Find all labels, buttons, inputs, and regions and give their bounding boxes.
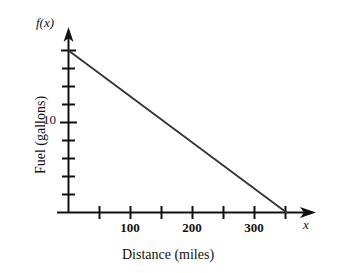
data-line-fuel-remaining bbox=[69, 51, 287, 213]
x-tick-label-200: 200 bbox=[182, 221, 202, 234]
y-axis-title: Fuel (gallons) bbox=[34, 55, 48, 215]
x-tick-label-300: 300 bbox=[244, 221, 264, 234]
fuel-vs-distance-chart: f(x) x 10 100 200 300 Distance (miles) F… bbox=[0, 0, 337, 273]
y-axis-symbol-label: f(x) bbox=[36, 16, 54, 29]
x-tick-label-100: 100 bbox=[120, 221, 140, 234]
chart-canvas bbox=[0, 0, 337, 273]
x-axis-symbol-label: x bbox=[303, 218, 309, 231]
x-axis-title: Distance (miles) bbox=[122, 248, 214, 262]
